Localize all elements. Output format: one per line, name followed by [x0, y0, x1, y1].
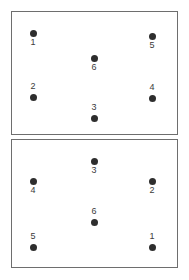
point-dot-icon: [91, 55, 98, 62]
point-label: 5: [142, 41, 162, 50]
point-dot-icon: [149, 178, 156, 185]
point-dot-icon: [149, 33, 156, 40]
point-label: 2: [23, 82, 43, 91]
point-dot-icon: [30, 30, 37, 37]
point-dot-icon: [30, 244, 37, 251]
point-label: 1: [142, 232, 162, 241]
point-label: 1: [23, 38, 43, 47]
point-label: 6: [84, 207, 104, 216]
point-dot-icon: [30, 178, 37, 185]
point-label: 3: [84, 166, 104, 175]
point-dot-icon: [91, 158, 98, 165]
point-label: 4: [142, 83, 162, 92]
point-label: 3: [84, 103, 104, 112]
point-label: 2: [142, 186, 162, 195]
point-dot-icon: [91, 115, 98, 122]
point-dot-icon: [149, 95, 156, 102]
point-label: 5: [23, 232, 43, 241]
point-label: 4: [23, 186, 43, 195]
point-dot-icon: [149, 244, 156, 251]
figure-root: 156243342651: [0, 0, 189, 280]
point-label: 6: [84, 63, 104, 72]
point-dot-icon: [30, 94, 37, 101]
point-dot-icon: [91, 219, 98, 226]
